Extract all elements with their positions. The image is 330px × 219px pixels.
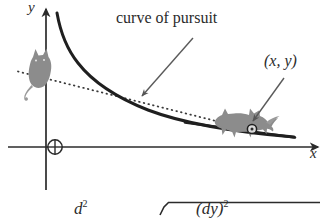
point-marker-center bbox=[251, 128, 254, 131]
x-axis-label: x bbox=[310, 146, 317, 161]
formula-left-fragment: d2 bbox=[74, 198, 88, 219]
annotation-arrow-icon-curve bbox=[142, 38, 193, 96]
formula-left-base: d bbox=[74, 199, 83, 218]
curve-of-pursuit-label: curve of pursuit bbox=[116, 10, 217, 26]
formula-right-exponent: 2 bbox=[223, 198, 228, 209]
y-axis-label: y bbox=[28, 0, 35, 15]
cropped-formula-row: d2 (dy)2 bbox=[0, 196, 330, 219]
point-coordinate-label: (x, y) bbox=[264, 53, 297, 69]
formula-right-fragment: (dy)2 bbox=[196, 198, 228, 219]
formula-left-exponent: 2 bbox=[83, 198, 88, 209]
annotation-arrow-icon-point bbox=[253, 78, 284, 121]
pursuit-curve-figure bbox=[0, 0, 330, 219]
formula-right-base: (dy) bbox=[196, 199, 223, 218]
